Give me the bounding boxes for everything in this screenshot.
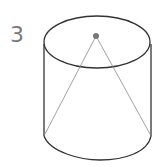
cylinder-top-ellipse bbox=[44, 16, 150, 68]
cone-left-edge bbox=[45, 36, 96, 134]
cylinder-bottom-arc bbox=[44, 136, 151, 160]
cone-apex-dot bbox=[93, 33, 99, 39]
cylinder-cone-diagram bbox=[0, 0, 165, 167]
cone-right-edge bbox=[96, 36, 150, 134]
